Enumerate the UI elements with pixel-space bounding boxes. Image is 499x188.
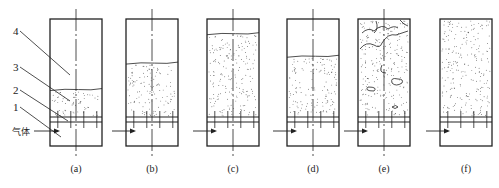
particle-dot — [256, 44, 257, 45]
particle-dot — [250, 69, 251, 70]
particle-dot — [233, 54, 234, 55]
particle-dot — [224, 109, 225, 110]
particle-dot — [362, 40, 363, 41]
particle-dot — [150, 86, 151, 87]
particle-dot — [220, 49, 221, 50]
particle-dot — [159, 85, 160, 86]
particle-dot — [468, 65, 469, 66]
particle-dot — [83, 93, 84, 94]
particle-dot — [319, 112, 320, 113]
particle-dot — [444, 41, 445, 42]
particle-dot — [456, 46, 457, 47]
particle-dot — [484, 96, 485, 97]
particle-dot — [132, 73, 133, 74]
particle-dot — [374, 81, 375, 82]
particle-dot — [311, 103, 312, 104]
particle-dot — [150, 91, 151, 92]
particle-dot — [241, 110, 242, 111]
particle-dot — [147, 91, 148, 92]
particle-dot — [75, 97, 76, 98]
particle-dot — [394, 62, 395, 63]
callout-leader-3 — [20, 67, 70, 101]
particle-dot — [400, 77, 401, 78]
particle-dot — [488, 61, 489, 62]
particle-dot — [371, 60, 372, 61]
particle-dot — [247, 91, 248, 92]
particle-dot — [210, 63, 211, 64]
particle-dot — [75, 92, 76, 93]
particle-dot — [302, 104, 303, 105]
particle-dot — [380, 50, 381, 51]
particle-dot — [394, 28, 395, 29]
particle-dot — [298, 113, 299, 114]
particle-dot — [231, 88, 232, 89]
particle-dot — [235, 74, 236, 75]
particle-dot — [240, 105, 241, 106]
gas-inlet-arrow — [344, 129, 368, 134]
particle-dot — [151, 92, 152, 93]
particle-dot — [362, 64, 363, 65]
particle-dot — [361, 24, 362, 25]
particle-dot — [472, 115, 473, 116]
particle-dot — [144, 76, 145, 77]
particle-dot — [331, 99, 332, 100]
particle-dot — [379, 39, 380, 40]
particle-dot — [236, 83, 237, 84]
particle-dot — [390, 53, 391, 54]
particle-dot — [385, 56, 386, 57]
particle-dot — [218, 62, 219, 63]
particle-dot — [471, 105, 472, 106]
particle-dot — [305, 109, 306, 110]
particle-dot — [295, 80, 296, 81]
particle-dot — [300, 87, 301, 88]
particle-dot — [451, 95, 452, 96]
particle-dot — [402, 50, 403, 51]
particle-dot — [362, 94, 363, 95]
particle-dot — [373, 70, 374, 71]
particle-dot — [458, 23, 459, 24]
particle-dot — [376, 40, 377, 41]
particle-dot — [133, 81, 134, 82]
particle-dot — [402, 59, 403, 60]
particle-dot — [474, 28, 475, 29]
particle-dot — [166, 86, 167, 87]
particle-dot — [237, 36, 238, 37]
particle-dot — [230, 79, 231, 80]
particle-dot — [150, 115, 151, 116]
particle-dot — [249, 43, 250, 44]
particle-dot — [375, 42, 376, 43]
particle-dot — [306, 63, 307, 64]
particle-dot — [129, 84, 130, 85]
particle-dot — [255, 42, 256, 43]
particle-dot — [390, 58, 391, 59]
particle-dot — [486, 21, 487, 22]
particle-dot — [404, 72, 405, 73]
particle-dot — [215, 101, 216, 102]
particle-dot — [480, 76, 481, 77]
particle-dot — [223, 48, 224, 49]
particle-dot — [448, 62, 449, 63]
particle-dot — [449, 24, 450, 25]
particle-dot — [481, 106, 482, 107]
particle-dot — [327, 89, 328, 90]
particle-dot — [480, 26, 481, 27]
particle-dot — [210, 75, 211, 76]
particle-dot — [445, 31, 446, 32]
particle-dot — [474, 56, 475, 57]
particle-dot — [212, 48, 213, 49]
particle-dot — [295, 101, 296, 102]
particle-dot — [476, 81, 477, 82]
particle-dot — [464, 31, 465, 32]
particle-dot — [317, 105, 318, 106]
particle-dot — [400, 23, 401, 24]
particle-dot — [486, 51, 487, 52]
particle-dot — [376, 77, 377, 78]
particle-dot — [156, 114, 157, 115]
panel-b: (b) — [112, 9, 178, 175]
particle-dot — [132, 83, 133, 84]
gas-inlet-arrow — [426, 129, 450, 134]
particle-dot — [484, 83, 485, 84]
particle-dot — [460, 110, 461, 111]
particle-dot — [149, 102, 150, 103]
particle-dot — [213, 52, 214, 53]
